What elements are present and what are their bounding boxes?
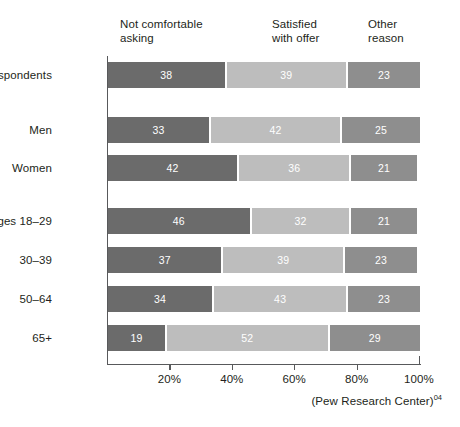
bar-value-label: 36	[288, 163, 300, 174]
row-label: Men	[29, 122, 52, 138]
bar-segment: 38	[108, 62, 225, 88]
bar-segment: 19	[108, 325, 165, 351]
bar-segment: 43	[214, 286, 346, 312]
bar-value-label: 32	[294, 216, 306, 227]
bar-value-label: 52	[241, 333, 253, 344]
bar-value-label: 23	[378, 70, 390, 81]
bar-value-label: 38	[160, 70, 172, 81]
bar-row: Women423621	[108, 155, 420, 181]
source-superscript: 04	[434, 393, 442, 402]
x-axis-tick	[294, 364, 295, 370]
bar-segment: 46	[108, 208, 250, 234]
bar-value-label: 23	[375, 255, 387, 266]
bar-segment: 42	[108, 155, 237, 181]
column-header-satisfied-with-offer: Satisfied with offer	[272, 18, 319, 45]
x-axis-tick	[357, 364, 358, 370]
bar-value-label: 21	[378, 163, 390, 174]
bar-value-label: 29	[369, 333, 381, 344]
bar-row: 50–64344323	[108, 286, 420, 312]
bar-value-label: 39	[280, 70, 292, 81]
bar-segment: 23	[348, 286, 420, 312]
bar-value-label: 25	[375, 125, 387, 136]
bar-row: 30–39373923	[108, 247, 420, 273]
column-header-other-reason: Other reason	[368, 18, 404, 45]
bar-segment: 39	[223, 247, 343, 273]
bar-segment: 23	[348, 62, 420, 88]
bar-value-label: 39	[277, 255, 289, 266]
x-axis-tick	[232, 364, 233, 370]
bar-value-label: 21	[378, 216, 390, 227]
bar-value-label: 46	[173, 216, 185, 227]
x-axis-tick-label: 80%	[345, 373, 368, 385]
bar-segment: 42	[211, 117, 340, 143]
source-text: (Pew Research Center)	[311, 395, 433, 407]
stacked-bar-chart: Not comfortable asking Satisfied with of…	[0, 0, 460, 427]
x-axis-tick-label: 40%	[220, 373, 243, 385]
x-axis-tick-label: 100%	[404, 373, 434, 385]
x-axis-tick-label: 60%	[283, 373, 306, 385]
row-label: 50–64	[20, 291, 52, 307]
bar-row: 65+195229	[108, 325, 420, 351]
row-label: Ages 18–29	[0, 213, 52, 229]
bar-segment: 23	[345, 247, 417, 273]
bar-row: All respondents383923	[108, 62, 420, 88]
bar-value-label: 33	[152, 125, 164, 136]
bar-value-label: 37	[159, 255, 171, 266]
bar-value-label: 34	[154, 294, 166, 305]
bar-segment: 37	[108, 247, 221, 273]
row-label: 65+	[32, 330, 52, 346]
plot-area: All respondents383923Men334225Women42362…	[108, 56, 420, 364]
bar-segment: 36	[239, 155, 349, 181]
bar-segment: 21	[351, 155, 417, 181]
x-axis-tick-label: 20%	[158, 373, 181, 385]
x-axis-tick	[169, 364, 170, 370]
source-note: (Pew Research Center)04	[311, 393, 442, 407]
bar-segment: 32	[252, 208, 350, 234]
row-label: Women	[12, 160, 52, 176]
bar-segment: 21	[351, 208, 417, 234]
bar-segment: 52	[167, 325, 327, 351]
bar-value-label: 19	[131, 333, 143, 344]
bar-row: Men334225	[108, 117, 420, 143]
bar-value-label: 23	[378, 294, 390, 305]
x-axis-line	[107, 364, 421, 365]
bar-value-label: 42	[269, 125, 281, 136]
bar-value-label: 43	[274, 294, 286, 305]
bar-segment: 25	[342, 117, 420, 143]
bar-value-label: 42	[166, 163, 178, 174]
bar-segment: 33	[108, 117, 209, 143]
column-header-not-comfortable-asking: Not comfortable asking	[120, 18, 203, 45]
row-label: All respondents	[0, 67, 52, 83]
bar-row: Ages 18–29463221	[108, 208, 420, 234]
bar-segment: 29	[330, 325, 420, 351]
row-label: 30–39	[20, 252, 52, 268]
bar-segment: 34	[108, 286, 212, 312]
bar-segment: 39	[227, 62, 347, 88]
